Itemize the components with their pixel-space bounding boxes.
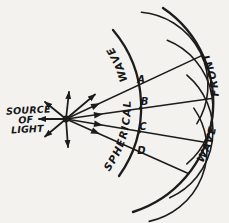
spherical-wave-label: SPHERICAL WAVE: [101, 45, 133, 173]
point-label-b: B: [141, 96, 149, 107]
source-arrow-down-icon: [66, 119, 68, 147]
light-source-point: [63, 116, 70, 123]
spherical-wave-label-text: SPHERICAL WAVE: [101, 45, 133, 173]
ray-arrowhead-a: [90, 100, 101, 110]
source-arrow-downleft-icon: [45, 119, 66, 137]
source-starburst: [39, 92, 95, 147]
ray-arrowhead-d: [90, 127, 101, 137]
diagram-canvas: SOURCE OF LIGHT SPHERICAL WAVE WAVE FRON…: [0, 0, 229, 223]
huygens-wavefront-diagram: SOURCE OF LIGHT SPHERICAL WAVE WAVE FRON…: [0, 0, 229, 223]
point-b-dot: [139, 107, 142, 110]
point-label-c: C: [139, 121, 147, 132]
point-label-d: D: [137, 145, 145, 156]
source-label-line3: LIGHT: [11, 123, 46, 136]
wave-front-label: WAVE FRONT: [194, 51, 222, 164]
wavelet-arc-d: [149, 108, 207, 221]
wave-front-arc: [133, 8, 213, 212]
point-label-a: A: [136, 74, 145, 85]
source-arrow-up-icon: [66, 92, 69, 119]
wave-front-label-text: WAVE FRONT: [194, 51, 222, 164]
